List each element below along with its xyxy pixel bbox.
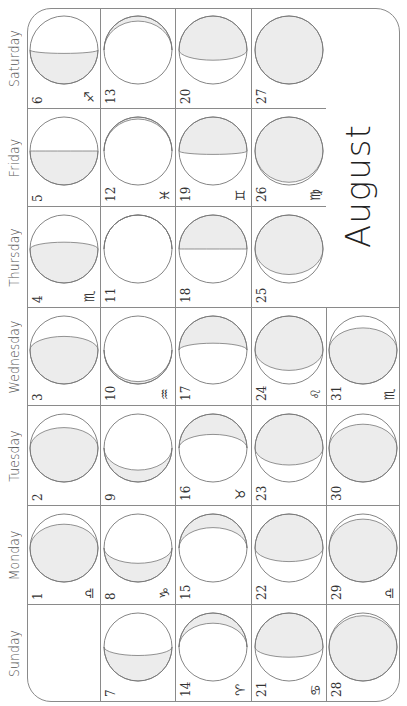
day-cell[interactable]: 18 (175, 207, 251, 308)
day-number: 1 (31, 592, 45, 600)
zodiac-sign-icon: ♍ (308, 189, 323, 201)
day-cell[interactable]: 25 (251, 207, 326, 308)
moon-phase-icon (102, 213, 174, 285)
day-number: 8 (104, 592, 118, 600)
moon-phase-icon (102, 14, 174, 86)
day-cell[interactable]: 5 (27, 109, 100, 207)
day-cell[interactable]: 30 (326, 406, 400, 506)
day-cell[interactable]: 20 (175, 8, 251, 109)
weekday-thursday: Thursday (2, 213, 26, 302)
day-cell[interactable]: 6♐ (27, 8, 100, 109)
day-cell[interactable]: 16♉ (175, 406, 251, 506)
moon-phase-icon (253, 213, 325, 285)
day-number: 5 (31, 194, 45, 202)
moon-phase-icon (327, 314, 399, 386)
day-cell[interactable]: 15 (175, 506, 251, 605)
day-number: 4 (31, 295, 45, 303)
day-cell[interactable]: 7 (100, 605, 175, 702)
day-number: 2 (31, 493, 45, 501)
zodiac-sign-icon: ♉ (233, 488, 248, 500)
day-number: 16 (179, 486, 193, 501)
moon-phase-icon (177, 412, 249, 484)
day-cell[interactable]: 12♓ (100, 109, 175, 207)
day-cell[interactable]: 23 (251, 406, 326, 506)
day-cell[interactable]: 24♌ (251, 308, 326, 406)
day-cell[interactable]: 28 (326, 605, 400, 702)
day-number: 30 (330, 486, 344, 501)
zodiac-sign-icon: ♎ (82, 587, 97, 599)
day-number: 6 (31, 96, 45, 104)
day-number: 26 (255, 187, 269, 202)
weekday-wednesday: Wednesday (2, 314, 26, 400)
day-cell[interactable]: 29♎ (326, 506, 400, 605)
day-number: 22 (255, 585, 269, 600)
day-cell[interactable]: 10♒ (100, 308, 175, 406)
moon-phase-icon (327, 611, 399, 683)
zodiac-sign-icon: ♈ (233, 684, 248, 696)
day-cell[interactable]: 8♑ (100, 506, 175, 605)
moon-phase-icon (327, 512, 399, 584)
zodiac-sign-icon: ♏ (382, 388, 397, 400)
day-cell[interactable]: 31♏ (326, 308, 400, 406)
moon-phase-icon (177, 213, 249, 285)
day-number: 27 (255, 89, 269, 104)
moon-phase-icon (177, 314, 249, 386)
day-cell[interactable]: 4♏ (27, 207, 100, 308)
day-number: 7 (104, 689, 118, 697)
day-number: 9 (104, 493, 118, 501)
day-cell[interactable]: 22 (251, 506, 326, 605)
day-number: 28 (330, 682, 344, 697)
zodiac-sign-icon: ♏ (82, 290, 97, 302)
day-cell[interactable]: 19♊ (175, 109, 251, 207)
zodiac-sign-icon: ♌ (308, 388, 323, 400)
day-cell[interactable]: 13 (100, 8, 175, 109)
zodiac-sign-icon: ♎ (382, 587, 397, 599)
weekday-friday: Friday (2, 115, 26, 201)
zodiac-sign-icon: ♐ (82, 91, 97, 103)
moon-phase-icon (102, 314, 174, 386)
day-cell[interactable]: 26♍ (251, 109, 326, 207)
weekday-monday: Monday (2, 512, 26, 599)
day-cell[interactable]: 2 (27, 406, 100, 506)
day-number: 13 (104, 89, 118, 104)
day-cell[interactable]: 14♈ (175, 605, 251, 702)
day-number: 29 (330, 585, 344, 600)
moon-phase-icon (327, 412, 399, 484)
moon-phase-icon (253, 14, 325, 86)
zodiac-sign-icon: ♓ (157, 189, 172, 201)
day-number: 31 (330, 386, 344, 401)
day-number: 24 (255, 386, 269, 401)
day-cell[interactable]: 1♎ (27, 506, 100, 605)
moon-phase-icon (28, 512, 100, 584)
moon-phase-icon (102, 115, 174, 187)
zodiac-sign-icon: ♋ (308, 684, 323, 696)
moon-phase-icon (102, 412, 174, 484)
weekday-sunday: Sunday (2, 611, 26, 696)
moon-phase-icon (28, 314, 100, 386)
day-cell[interactable]: 27 (251, 8, 326, 109)
day-number: 3 (31, 393, 45, 401)
moon-phase-icon (28, 412, 100, 484)
month-title: August (338, 124, 378, 248)
moon-phase-icon (102, 611, 174, 683)
day-cell[interactable]: 9 (100, 406, 175, 506)
day-number: 21 (255, 682, 269, 697)
moon-phase-icon (28, 213, 100, 285)
moon-phase-icon (253, 412, 325, 484)
moon-phase-icon (102, 512, 174, 584)
moon-phase-icon (28, 115, 100, 187)
moon-phase-icon (253, 611, 325, 683)
day-number: 12 (104, 187, 118, 202)
moon-phase-icon (177, 512, 249, 584)
day-cell[interactable]: 21♋ (251, 605, 326, 702)
day-cell[interactable]: 3 (27, 308, 100, 406)
zodiac-sign-icon: ♑ (157, 587, 172, 599)
moon-phase-icon (253, 115, 325, 187)
day-cell[interactable]: 11 (100, 207, 175, 308)
day-number: 18 (179, 288, 193, 303)
weekday-saturday: Saturday (2, 14, 26, 103)
moon-phase-icon (177, 14, 249, 86)
day-number: 14 (179, 682, 193, 697)
moon-phase-icon (253, 512, 325, 584)
day-cell[interactable]: 17 (175, 308, 251, 406)
